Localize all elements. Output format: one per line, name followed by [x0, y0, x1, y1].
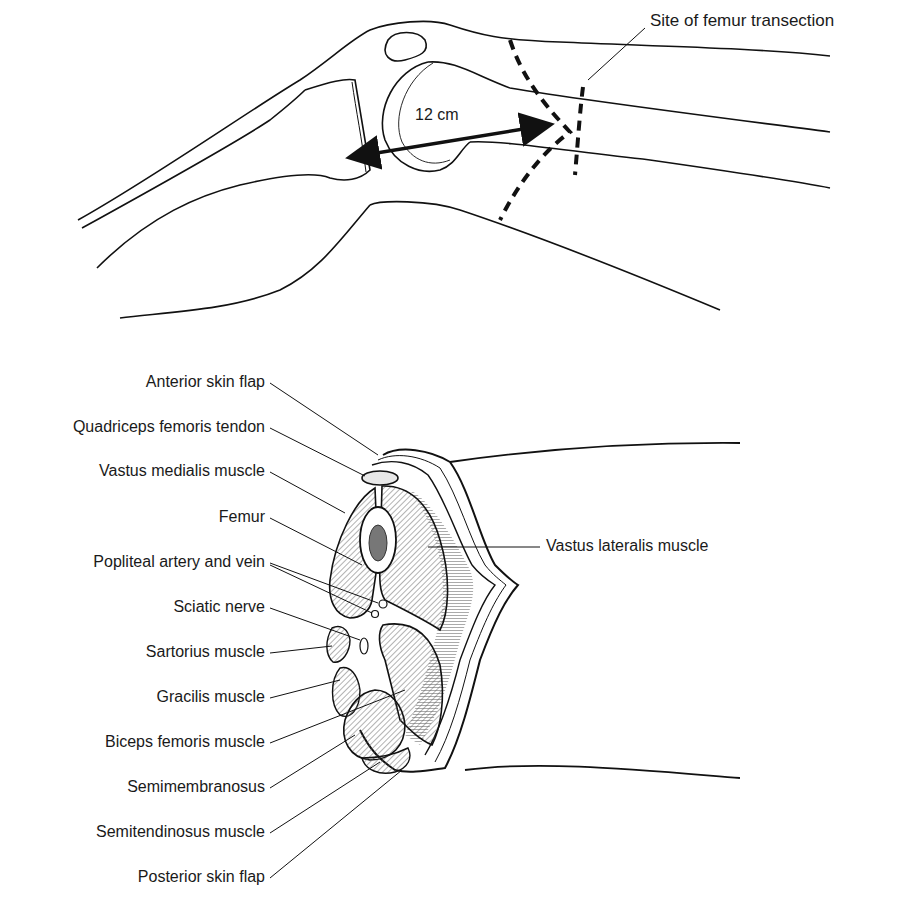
quadriceps-tendon-shape: [362, 471, 398, 485]
label-popliteal-artery-and-vein: Popliteal artery and vein: [93, 553, 265, 571]
label-sartorius-muscle: Sartorius muscle: [146, 643, 265, 661]
label-femur: Femur: [219, 508, 265, 526]
label-semitendinosus-muscle: Semitendinosus muscle: [96, 823, 265, 841]
label-gracilis-muscle: Gracilis muscle: [157, 688, 265, 706]
label-semimembranosus: Semimembranosus: [127, 778, 265, 796]
label-posterior-skin-flap: Posterior skin flap: [138, 868, 265, 886]
knee-lateral-view: [78, 21, 830, 318]
label-vastus-lateralis-muscle: Vastus lateralis muscle: [546, 537, 708, 555]
label-biceps-femoris-muscle: Biceps femoris muscle: [105, 733, 265, 751]
label-quadriceps-femoris-tendon: Quadriceps femoris tendon: [73, 418, 265, 436]
label-vastus-medialis-muscle: Vastus medialis muscle: [99, 462, 265, 480]
transection-site-label: Site of femur transection: [650, 12, 834, 30]
measurement-arrow: [352, 125, 548, 157]
label-sciatic-nerve: Sciatic nerve: [173, 598, 265, 616]
knee-anatomy-illustration: [0, 0, 919, 904]
popliteal-vessel-shape: [379, 600, 387, 608]
measurement-label: 12 cm: [415, 106, 459, 124]
thigh-cross-section: [327, 443, 740, 778]
transection-leader-line: [588, 28, 645, 80]
label-anterior-skin-flap: Anterior skin flap: [146, 373, 265, 391]
